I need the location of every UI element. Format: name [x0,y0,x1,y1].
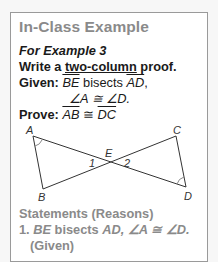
label-a: A [25,124,33,136]
statement-1-seg-be: BE [33,222,51,237]
segment-bc [43,136,176,189]
angle-a-arc [35,140,42,146]
label-d: D [184,190,192,202]
angle-1-label: 1 [89,157,95,169]
segment-ad [33,136,186,187]
label-c: C [173,124,181,136]
angle-d-arc [177,177,184,184]
label-b: B [38,191,45,203]
statement-1-rest: , ∠A ≅ ∠D. [121,222,190,237]
label-e: E [105,147,113,159]
statement-1-number: 1. [19,222,30,237]
statement-1-seg-ad: AD [102,222,120,237]
statement-1-mid: bisects [51,222,102,237]
angle-2-label: 2 [123,157,130,169]
statement-1: 1. BE bisects AD, ∠A ≅ ∠D. [19,222,190,237]
segment-ab [33,136,43,189]
segment-cd [176,136,186,187]
in-class-example-card: In-Class Example For Example 3 Write a t… [10,12,208,262]
statements-header: Statements (Reasons) [19,206,153,221]
statement-1-reason: (Given) [30,238,74,253]
